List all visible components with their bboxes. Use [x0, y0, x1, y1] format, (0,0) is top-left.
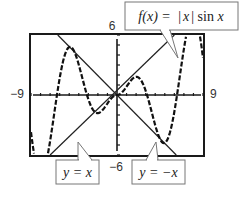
- fx-callout: f(x) = |x| sin x: [125, 2, 238, 58]
- ynx-callout: y = −x: [132, 142, 185, 184]
- function-graph: 6 −6 −9 9 f(x) = |x| sin x y = x y = −x: [0, 0, 247, 204]
- ynx-label: y = −x: [137, 165, 178, 180]
- yx-callout: y = x: [56, 142, 99, 184]
- yx-callout-pointer: [78, 142, 92, 160]
- xmax-tick-label: 9: [210, 87, 217, 101]
- ymax-tick-label: 6: [109, 19, 116, 33]
- plot-area: [31, 35, 203, 155]
- yx-label: y = x: [61, 165, 93, 180]
- ymin-tick-label: −6: [109, 160, 123, 174]
- xmin-tick-label: −9: [10, 87, 24, 101]
- ynx-callout-pointer: [146, 142, 158, 160]
